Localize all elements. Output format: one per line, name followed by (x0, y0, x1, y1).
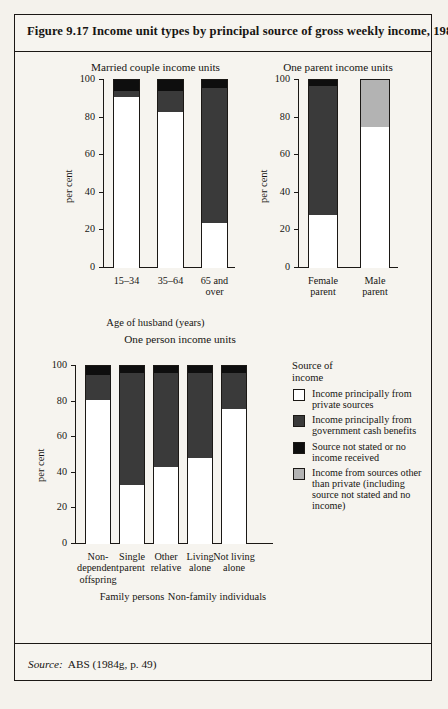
y-tick (99, 229, 103, 230)
y-tick-label: 100 (67, 73, 95, 84)
bar-segment-notstated (114, 80, 139, 91)
x-group-label: Non-family individuals (157, 591, 277, 602)
legend-title-line1: Source of (292, 360, 426, 372)
y-tick-label: 20 (67, 223, 95, 234)
x-category-label-line: over (187, 286, 242, 297)
y-tick (294, 192, 298, 193)
bar-segment-govt (114, 91, 139, 97)
bar-segment-govt (202, 88, 227, 223)
figure-title: Figure 9.17 Income unit types by princip… (27, 24, 423, 39)
bar-segment-private (154, 467, 178, 544)
y-tick-label: 60 (262, 148, 290, 159)
y-tick (99, 79, 103, 80)
chart-married-couple-income-units: Married couple income units 020406080100… (63, 61, 248, 311)
y-tick-label: 0 (39, 537, 67, 548)
chart-3-title: One person income units (75, 333, 285, 345)
y-tick-label: 100 (39, 359, 67, 370)
bar-segment-govt (86, 375, 110, 400)
y-tick (294, 154, 298, 155)
bar-segment-private (188, 458, 212, 544)
x-category-label-line: Not living (207, 551, 261, 562)
legend-item-govt: Income principally from government cash … (292, 414, 426, 436)
y-tick (71, 401, 75, 402)
y-tick (71, 543, 75, 544)
chart-2-title: One parent income units (258, 61, 418, 73)
bar-segment-govt (154, 373, 178, 467)
bar-65-and-over (201, 79, 228, 267)
chart-one-parent-income-units: One parent income units 020406080100per … (258, 61, 418, 311)
legend-item-notstated: Source not stated or no income received (292, 441, 426, 463)
y-axis (298, 79, 299, 267)
bar-segment-notstated (158, 80, 183, 91)
y-tick (71, 365, 75, 366)
bar-segment-private (86, 400, 110, 544)
y-tick (294, 267, 298, 268)
y-tick (71, 472, 75, 473)
legend-swatch-other-icon (293, 468, 305, 480)
chart-1-title: Married couple income units (63, 61, 248, 73)
bar-segment-private (222, 409, 246, 544)
y-tick (294, 117, 298, 118)
y-tick-label: 20 (39, 501, 67, 512)
y-axis (103, 79, 104, 267)
legend-item-private: Income principally from private sources (292, 388, 426, 410)
y-tick (99, 192, 103, 193)
y-tick (71, 436, 75, 437)
bar-segment-other (361, 80, 389, 127)
y-tick-label: 80 (39, 395, 67, 406)
bar-segment-notstated (154, 366, 178, 373)
bar-segment-private (158, 112, 183, 268)
y-tick-label: 0 (67, 261, 95, 272)
x-category-label-line: Male (346, 275, 404, 286)
bar-segment-notstated (222, 366, 246, 373)
y-tick-label: 100 (262, 73, 290, 84)
source-line: Source:ABS (1984g, p. 49) (28, 658, 157, 670)
bar-segment-private (309, 215, 337, 268)
legend-label-govt: Income principally from government cash … (312, 414, 416, 436)
bar-segment-notstated (309, 80, 337, 86)
bar-non-dependent-offspring (85, 365, 111, 543)
y-axis-label: per cent (35, 449, 46, 483)
bar-segment-govt (188, 373, 212, 458)
bar-segment-private (120, 485, 144, 544)
source-value: ABS (1984g, p. 49) (68, 658, 157, 670)
y-tick-label: 80 (262, 111, 290, 122)
bar-segment-govt (158, 91, 183, 112)
x-category-label-line: offspring (71, 574, 125, 585)
legend-swatch-govt-icon (293, 415, 305, 427)
legend-swatch-private-icon (293, 389, 305, 401)
x-category-label-line: parent (294, 286, 352, 297)
y-axis-label: per cent (258, 170, 269, 204)
legend-label-notstated: Source not stated or no income received (312, 441, 406, 463)
x-category-label-line: Female (294, 275, 352, 286)
x-category-label: 65 andover (187, 275, 242, 298)
bar-segment-private (361, 127, 389, 268)
bar-single-parent (119, 365, 145, 543)
y-tick-label: 60 (39, 430, 67, 441)
y-tick (71, 507, 75, 508)
bar-male-parent (360, 79, 390, 267)
legend-label-other: Income from sources other than private (… (312, 467, 421, 511)
y-axis-label: per cent (63, 170, 74, 204)
bar-segment-govt (309, 86, 337, 216)
y-tick-label: 80 (67, 111, 95, 122)
y-tick (294, 229, 298, 230)
bar-35-64 (157, 79, 184, 267)
figure-box: Figure 9.17 Income unit types by princip… (14, 14, 432, 681)
bar-living-alone (187, 365, 213, 543)
y-tick (99, 267, 103, 268)
bar-segment-notstated (120, 366, 144, 373)
bar-segment-notstated (86, 366, 110, 375)
y-tick (99, 154, 103, 155)
legend-swatch-notstated-icon (293, 442, 305, 454)
bar-segment-private (202, 223, 227, 268)
bar-female-parent (308, 79, 338, 267)
bar-segment-govt (222, 373, 246, 409)
bar-segment-notstated (202, 80, 227, 88)
title-divider (15, 51, 431, 52)
legend-title: Source of income (292, 360, 426, 383)
bar-15-34 (113, 79, 140, 267)
x-category-label-line: parent (346, 286, 404, 297)
legend-item-other: Income from sources other than private (… (292, 467, 426, 511)
legend-title-line2: income (292, 372, 426, 384)
